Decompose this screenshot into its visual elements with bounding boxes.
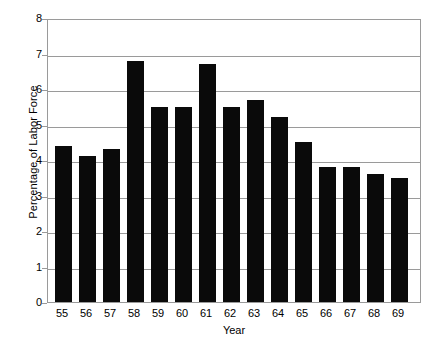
bar	[175, 107, 192, 302]
x-axis-tick-label: 68	[368, 306, 380, 320]
y-axis-tick-mark	[42, 55, 47, 56]
bar-chart: Percentage of Labor Force 012345678 5556…	[0, 0, 436, 350]
x-axis-tick-label: 67	[344, 306, 356, 320]
x-axis-tick-label: 69	[392, 306, 404, 320]
y-axis-tick-label: 6	[28, 84, 42, 95]
bar	[103, 149, 120, 302]
y-axis-tick-mark	[42, 197, 47, 198]
y-axis-tick-label: 4	[28, 155, 42, 166]
y-axis-tick-mark	[42, 161, 47, 162]
x-axis-tick-label: 66	[320, 306, 332, 320]
y-axis-tick-mark	[42, 19, 47, 20]
y-axis-tick-mark	[42, 268, 47, 269]
y-axis-tick-mark	[42, 303, 47, 304]
x-axis-tick-label: 63	[248, 306, 260, 320]
bar	[199, 64, 216, 302]
bar	[223, 107, 240, 302]
y-axis-tick-label: 7	[28, 49, 42, 60]
x-axis-tick-label: 65	[296, 306, 308, 320]
bar	[247, 100, 264, 302]
y-axis-tick-label: 2	[28, 226, 42, 237]
plot-area	[47, 19, 421, 303]
bar	[367, 174, 384, 302]
y-axis-tick-mark	[42, 232, 47, 233]
bar	[391, 178, 408, 302]
bar	[55, 146, 72, 302]
bar	[127, 61, 144, 302]
x-axis-tick-label: 55	[56, 306, 68, 320]
y-axis-tick-label: 8	[28, 13, 42, 24]
y-axis-tick-label: 3	[28, 191, 42, 202]
y-axis-tick-label: 5	[28, 120, 42, 131]
bar	[295, 142, 312, 302]
x-axis-tick-label: 57	[104, 306, 116, 320]
y-axis-tick-mark	[42, 126, 47, 127]
y-axis-tick-label: 1	[28, 262, 42, 273]
x-axis-tick-labels: 555657585960616263646566676869	[47, 306, 421, 322]
x-axis-tick-label: 60	[176, 306, 188, 320]
y-axis-tick-label: 0	[28, 297, 42, 308]
bar	[343, 167, 360, 302]
bar	[271, 117, 288, 302]
bar	[151, 107, 168, 302]
x-axis-title: Year	[47, 324, 421, 336]
bars-layer	[48, 20, 420, 302]
x-axis-tick-label: 61	[200, 306, 212, 320]
bar	[79, 156, 96, 302]
y-axis-tick-labels: 012345678	[28, 0, 42, 350]
bar	[319, 167, 336, 302]
x-axis-tick-label: 64	[272, 306, 284, 320]
y-axis-tick-mark	[42, 90, 47, 91]
x-axis-tick-label: 62	[224, 306, 236, 320]
x-axis-tick-label: 56	[80, 306, 92, 320]
x-axis-tick-label: 59	[152, 306, 164, 320]
x-axis-tick-label: 58	[128, 306, 140, 320]
